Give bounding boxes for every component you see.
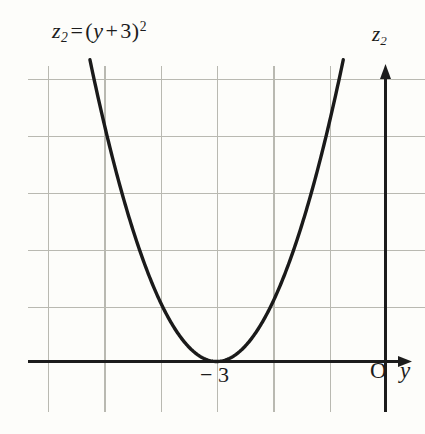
equation-label: z2=(y+3)2 [52, 18, 147, 46]
z2-axis-arrowhead [380, 64, 391, 79]
z2-axis-label-sub: 2 [380, 33, 387, 48]
origin-label: O [370, 358, 387, 384]
y-axis-label: y [400, 358, 410, 384]
z2-axis-label: z2 [372, 22, 387, 49]
parabola-curve [90, 60, 343, 362]
vertex-tick-label: − 3 [200, 362, 229, 388]
equation-constant: 3 [120, 18, 132, 43]
equation-open-paren: ( [85, 18, 93, 43]
equation-inner-var: y [93, 18, 103, 43]
equation-equals: = [68, 18, 85, 43]
z2-axis-label-var: z [372, 22, 380, 46]
equation-exponent: 2 [140, 19, 147, 34]
equation-lhs-var: z [52, 18, 61, 43]
equation-close-paren: ) [132, 18, 140, 43]
equation-plus: + [103, 18, 120, 43]
